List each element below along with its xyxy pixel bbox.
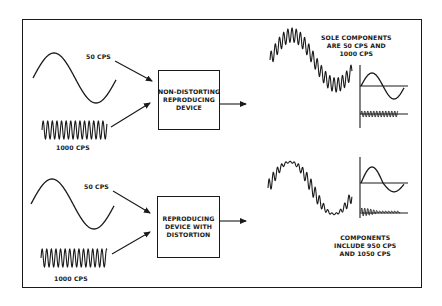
label-50cps-bottom: 50 CPS bbox=[84, 183, 109, 191]
arrow-1000cps-top bbox=[111, 103, 150, 127]
sine-1000cps-top bbox=[42, 121, 107, 139]
sine-1000cps-bottom bbox=[41, 249, 107, 267]
component-ripple-bottom bbox=[361, 208, 400, 216]
combined-wave-bottom bbox=[268, 161, 352, 214]
arrow-50cps-top bbox=[115, 61, 152, 81]
result-caption-top: SOLE COMPONENTS ARE 50 CPS AND 1000 CPS bbox=[321, 34, 392, 59]
distorting-device-box: REPRODUCING DEVICE WITH DISTORTION bbox=[157, 196, 220, 258]
label-50cps-top: 50 CPS bbox=[86, 53, 111, 61]
non-distorting-device-box: NON-DISTORTING REPRODUCING DEVICE bbox=[158, 70, 220, 130]
device-label-top: NON-DISTORTING REPRODUCING DEVICE bbox=[158, 88, 220, 113]
component-sine-bottom bbox=[361, 167, 404, 192]
device-label-bottom: REPRODUCING DEVICE WITH DISTORTION bbox=[163, 215, 215, 240]
label-1000cps-top: 1000 CPS bbox=[56, 144, 90, 152]
result-caption-bottom: COMPONENTS INCLUDE 950 CPS AND 1050 CPS bbox=[334, 234, 396, 259]
arrow-1000cps-bottom bbox=[112, 232, 150, 254]
arrow-50cps-bottom bbox=[113, 191, 150, 213]
label-1000cps-bottom: 1000 CPS bbox=[54, 275, 88, 283]
